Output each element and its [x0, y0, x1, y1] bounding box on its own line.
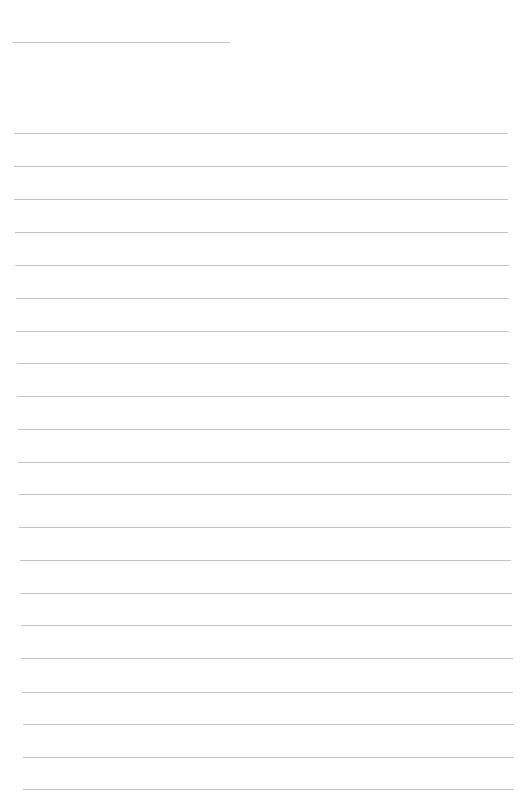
ruled-line	[21, 625, 512, 626]
ruled-line	[15, 232, 508, 233]
ruled-line	[23, 757, 514, 758]
ruled-line	[16, 298, 509, 299]
lined-paper-page	[0, 0, 522, 810]
ruled-line	[20, 560, 511, 561]
ruled-line	[21, 658, 513, 659]
ruled-line	[23, 789, 514, 790]
ruled-line	[18, 462, 510, 463]
ruled-line	[18, 429, 510, 430]
ruled-line	[19, 494, 511, 495]
ruled-line	[15, 265, 509, 266]
ruled-line	[17, 396, 510, 397]
ruled-line	[19, 527, 511, 528]
header-line	[12, 42, 230, 43]
ruled-line	[14, 133, 508, 134]
ruled-line	[17, 363, 509, 364]
ruled-line	[22, 692, 513, 693]
ruled-line	[14, 199, 508, 200]
ruled-line	[14, 166, 508, 167]
ruled-line	[20, 593, 512, 594]
ruled-line	[23, 724, 514, 725]
ruled-line	[16, 331, 509, 332]
